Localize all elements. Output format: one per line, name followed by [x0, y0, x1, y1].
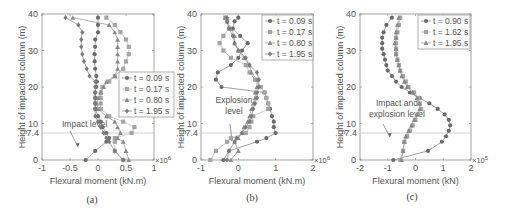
- data-point: [238, 34, 242, 38]
- data-point: [229, 136, 233, 140]
- data-point: [225, 140, 229, 144]
- data-point: [383, 58, 387, 62]
- data-point: [444, 134, 448, 138]
- data-point: [274, 131, 278, 135]
- data-point: [272, 125, 276, 129]
- data-point: [221, 48, 225, 52]
- data-point: [390, 74, 394, 78]
- data-point: [84, 158, 88, 162]
- data-point: [240, 48, 244, 52]
- data-point: [96, 23, 100, 27]
- data-point: [214, 78, 218, 82]
- data-point: [427, 101, 431, 105]
- panel-caption: (b): [246, 192, 258, 204]
- data-point: [132, 125, 136, 129]
- data-point: [440, 140, 444, 144]
- data-point: [113, 23, 117, 27]
- data-point: [386, 68, 390, 72]
- data-point: [380, 36, 384, 40]
- data-point: [255, 140, 259, 144]
- figure: 7.4-1-0.500.51010203040×106Flexural mome…: [0, 0, 508, 211]
- data-point: [104, 16, 108, 20]
- y-tick-label: 10: [187, 119, 197, 129]
- legend-marker-icon: [424, 30, 428, 34]
- reference-line-label: 7.4: [26, 128, 39, 138]
- legend: t = 0.09 st = 0.17 st = 0.80 st = 1.95 s: [262, 15, 313, 60]
- x-axis-label: Flexural moment (kN.m): [209, 176, 306, 186]
- data-point: [218, 41, 222, 45]
- panel-caption: (a): [86, 194, 97, 206]
- data-point: [118, 30, 122, 34]
- reference-line-label: 7.4: [185, 128, 198, 138]
- data-point: [219, 85, 223, 89]
- data-point: [127, 45, 131, 49]
- x-tick-label: -2: [356, 163, 364, 173]
- data-point: [93, 67, 97, 71]
- data-point: [113, 140, 117, 144]
- data-point: [121, 120, 125, 124]
- y-tick-label: 0: [192, 155, 197, 165]
- x-tick-label: 0.5: [120, 163, 133, 173]
- y-tick-label: 30: [346, 46, 356, 56]
- data-point: [380, 47, 384, 51]
- legend-label: t = 0.09 s: [134, 73, 169, 83]
- data-point: [381, 52, 385, 56]
- legend: t = 0.90 st = 1.62 st = 1.95 s: [418, 15, 470, 49]
- legend-marker-icon: [424, 19, 428, 23]
- data-point: [384, 63, 388, 67]
- annotation-line: Explosion: [216, 95, 253, 105]
- x-tick-label: 0: [236, 163, 241, 173]
- data-point: [130, 131, 134, 135]
- data-point: [96, 16, 100, 20]
- legend-label: t = 1.95 s: [134, 106, 169, 116]
- data-point: [426, 149, 430, 153]
- data-point: [244, 131, 248, 135]
- data-point: [266, 101, 270, 105]
- data-point: [443, 112, 447, 116]
- legend-label: t = 1.95 s: [433, 38, 468, 48]
- legend-marker-icon: [125, 87, 129, 91]
- y-tick-label: 0: [33, 155, 38, 165]
- data-point: [96, 30, 100, 34]
- data-point: [214, 149, 218, 153]
- data-point: [380, 41, 384, 45]
- data-point: [447, 118, 451, 122]
- legend-label: t = 0.80 s: [134, 95, 169, 105]
- data-point: [99, 101, 103, 105]
- data-point: [236, 56, 240, 60]
- data-point: [233, 19, 237, 23]
- chart-panel-b: 7.4-1012010203040×106Flexural moment (kN…: [176, 9, 331, 204]
- annotation-line: Impact and: [376, 98, 418, 108]
- data-point: [127, 52, 131, 56]
- legend: t = 0.09 st = 0.17 st = 0.80 st = 1.95 s: [119, 72, 174, 117]
- x-multiplier: ×106: [155, 155, 172, 165]
- chart-panel-c: 7.4-2-1012010203040×105Flexural moment (…: [335, 9, 489, 203]
- data-point: [244, 63, 248, 67]
- data-point: [381, 30, 385, 34]
- panel-caption: (c): [406, 191, 417, 203]
- data-point: [124, 59, 128, 63]
- data-point: [264, 136, 268, 140]
- data-point: [93, 149, 97, 153]
- legend-marker-icon: [125, 76, 129, 80]
- data-point: [221, 158, 225, 162]
- x-axis-label: Flexural moment (kN.m): [50, 176, 147, 186]
- data-point: [221, 34, 225, 38]
- data-point: [247, 125, 251, 129]
- data-point: [270, 114, 274, 118]
- y-tick-label: 40: [187, 9, 197, 19]
- x-tick-label: 1: [441, 163, 446, 173]
- data-point: [94, 74, 98, 78]
- x-multiplier-exponent: 6: [168, 155, 172, 161]
- data-point: [93, 59, 97, 63]
- data-point: [93, 37, 97, 41]
- data-point: [391, 158, 395, 162]
- data-point: [390, 16, 394, 20]
- legend-label: t = 0.09 s: [277, 16, 312, 26]
- y-tick-label: 20: [346, 82, 356, 92]
- data-point: [266, 107, 270, 111]
- x-tick-label: -0.5: [62, 163, 78, 173]
- chart-panel-a: 7.4-1-0.500.51010203040×106Flexural mome…: [17, 9, 174, 206]
- legend-label: t = 1.62 s: [433, 27, 468, 37]
- legend-label: t = 0.17 s: [134, 84, 169, 94]
